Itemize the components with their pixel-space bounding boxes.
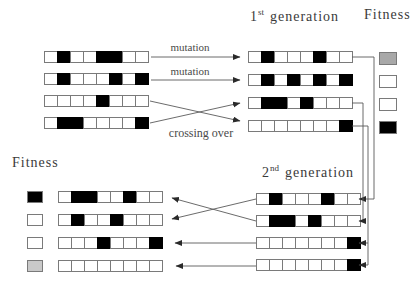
chromosome-row [248, 74, 353, 86]
gene-cell-white [274, 74, 288, 86]
gene-cell-white [287, 51, 301, 63]
gene-cell-white [269, 237, 283, 249]
fitness-square-black [27, 191, 43, 203]
chromosome-row [44, 95, 149, 107]
gene-cell-white [136, 191, 150, 203]
gene-cell-white [83, 117, 97, 129]
gene-cell-white [287, 97, 301, 109]
gene-cell-black [84, 191, 98, 203]
fitness-column-evaluated [27, 191, 43, 272]
crossover-arrow-down [150, 101, 240, 121]
gene-cell-white [248, 97, 262, 109]
crossing-over-label: crossing over [155, 126, 247, 141]
chromosome-row [248, 120, 353, 132]
evaluated-population-group [58, 191, 163, 272]
gene-cell-white [110, 260, 124, 272]
gene-cell-white [282, 193, 296, 205]
gene-cell-white [321, 237, 335, 249]
gene-cell-white [308, 259, 322, 271]
result-cross-arrow-up [172, 198, 256, 221]
gene-cell-white [295, 215, 309, 227]
gene-cell-white [248, 74, 262, 86]
gene-cell-white [122, 95, 136, 107]
gene-cell-white [123, 237, 137, 249]
first-generation-title: 1stgeneration [250, 7, 339, 25]
gene-cell-white [347, 193, 361, 205]
gene-cell-black [339, 120, 353, 132]
gene-cell-white [274, 51, 288, 63]
gene-cell-black [269, 215, 283, 227]
gene-cell-black [135, 117, 149, 129]
gene-cell-black [96, 95, 110, 107]
gene-cell-white [295, 237, 309, 249]
gene-cell-white [96, 117, 110, 129]
gene-cell-black [57, 73, 71, 85]
gene-cell-black [97, 237, 111, 249]
chromosome-row [58, 191, 163, 203]
fitness-square-white [27, 214, 43, 226]
gene-cell-white [300, 74, 314, 86]
gene-cell-white [44, 117, 58, 129]
fitness-top-title: Fitness [364, 7, 411, 23]
gene-cell-white [282, 259, 296, 271]
gene-cell-white [122, 117, 136, 129]
gene-cell-black [300, 97, 314, 109]
gene-cell-black [287, 74, 301, 86]
gene-cell-white [58, 260, 72, 272]
gene-cell-white [282, 237, 296, 249]
gene-cell-black [347, 237, 361, 249]
gene-cell-black [282, 215, 296, 227]
chromosome-row [256, 215, 361, 227]
gene-cell-black [109, 51, 123, 63]
gene-cell-white [44, 51, 58, 63]
gene-cell-white [248, 120, 262, 132]
gene-cell-black [261, 97, 275, 109]
gene-cell-white [149, 260, 163, 272]
gene-cell-white [313, 120, 327, 132]
gene-cell-white [122, 73, 136, 85]
gene-cell-black [313, 51, 327, 63]
gene-cell-black [110, 214, 124, 226]
gene-cell-white [70, 73, 84, 85]
gene-cell-white [339, 97, 353, 109]
gene-cell-white [321, 259, 335, 271]
chromosome-row [256, 237, 361, 249]
gen1-ordinal-suffix: st [258, 7, 264, 17]
chromosome-row [256, 193, 361, 205]
gene-cell-white [261, 120, 275, 132]
gene-cell-white [83, 95, 97, 107]
gene-cell-white [326, 120, 340, 132]
gene-cell-white [295, 193, 309, 205]
gene-cell-black [321, 193, 335, 205]
chromosome-row [44, 117, 149, 129]
fitness-column-first-generation [379, 52, 397, 134]
gene-cell-white [321, 215, 335, 227]
chromosome-row [58, 214, 163, 226]
gene-cell-black [135, 73, 149, 85]
gene-cell-white [135, 95, 149, 107]
gene-cell-white [334, 215, 348, 227]
gene-cell-white [122, 51, 136, 63]
gene-cell-white [136, 214, 150, 226]
gene-cell-white [97, 191, 111, 203]
gene-cell-white [97, 214, 111, 226]
gene-cell-white [110, 237, 124, 249]
gene-cell-black [96, 51, 110, 63]
fitness-bottom-title: Fitness [12, 155, 59, 171]
gene-cell-white [71, 237, 85, 249]
gene-cell-white [326, 74, 340, 86]
fitness-square-black [379, 121, 397, 134]
gene-cell-white [71, 260, 85, 272]
gene-cell-white [58, 191, 72, 203]
gene-cell-white [136, 260, 150, 272]
gen2-ordinal-suffix: nd [270, 163, 279, 173]
genetic-algorithm-diagram: { "labels": { "mutation_1": "mutation", … [0, 0, 416, 282]
gene-cell-white [83, 73, 97, 85]
gene-cell-white [97, 260, 111, 272]
second-generation-group [256, 193, 361, 271]
gene-cell-white [326, 51, 340, 63]
gene-cell-black [339, 74, 353, 86]
gene-cell-white [334, 237, 348, 249]
gene-cell-black [71, 214, 85, 226]
gene-cell-white [123, 214, 137, 226]
